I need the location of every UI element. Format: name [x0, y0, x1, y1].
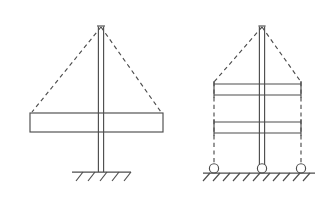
hatch-tick: [124, 172, 131, 181]
right-lower-transverse-beam: [214, 119, 301, 136]
hatch-tick: [293, 173, 300, 181]
hatch-tick: [283, 173, 290, 181]
hatch-tick: [233, 173, 240, 181]
hatch-tick: [112, 172, 119, 181]
left-transverse-beam: [30, 113, 163, 132]
hatch-tick: [263, 173, 270, 181]
hatch-tick: [213, 173, 220, 181]
hatch-tick: [203, 173, 210, 181]
deflected-shape-right-branch: [262, 27, 301, 82]
roller-support-center: [257, 164, 266, 173]
right-roller-supports: [203, 164, 315, 181]
structural-diagram-canvas: [0, 0, 331, 204]
left-diagram: [30, 26, 163, 181]
hatch-tick: [253, 173, 260, 181]
right-diagram: [203, 26, 315, 181]
roller-support-right: [296, 164, 305, 173]
hatch-tick: [88, 172, 95, 181]
ground-hatching: [76, 172, 131, 181]
right-upper-transverse-beam: [214, 81, 301, 98]
deflected-shape-right-branch: [101, 27, 161, 112]
right-deflected-shape-dashed: [214, 27, 301, 166]
hatch-tick: [76, 172, 83, 181]
hatch-tick: [100, 172, 107, 181]
left-deflected-shape-dashed: [32, 27, 161, 112]
hatch-tick: [243, 173, 250, 181]
hatch-tick: [223, 173, 230, 181]
hatch-tick: [303, 173, 310, 181]
deflected-shape-left-branch: [214, 27, 262, 82]
deflected-shape-left-branch: [32, 27, 101, 112]
structural-diagram-figure: [0, 0, 331, 204]
left-vertical-column: [97, 26, 105, 172]
hatch-tick: [273, 173, 280, 181]
ground-hatching: [203, 173, 310, 181]
left-fixed-support: [72, 172, 131, 181]
roller-support-left: [209, 164, 218, 173]
right-vertical-column: [258, 26, 265, 168]
